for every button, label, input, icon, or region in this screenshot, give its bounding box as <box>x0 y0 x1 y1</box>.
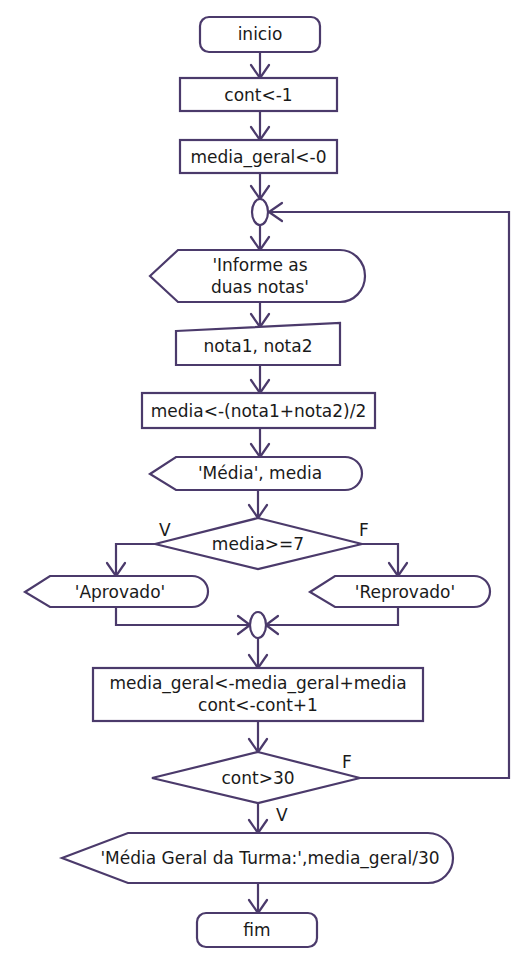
loop-connector <box>252 199 268 225</box>
show-geral-label: 'Média Geral da Turma:',media_geral/30 <box>90 847 450 869</box>
edge-label-cont-true: V <box>276 805 288 825</box>
merge-connector <box>250 612 266 638</box>
aprovado-label: 'Aprovado' <box>40 581 200 603</box>
end-label: fim <box>197 919 317 941</box>
read-notas-label: nota1, nota2 <box>176 335 340 357</box>
init-media-geral-label: media_geral<-0 <box>180 146 337 168</box>
start-label: inicio <box>200 23 320 45</box>
decision-media-label: media>=7 <box>180 533 336 555</box>
accumulate-label: media_geral<-media_geral+media cont<-con… <box>93 672 423 716</box>
init-cont-label: cont<-1 <box>180 84 337 106</box>
prompt-label: 'Informe as duas notas' <box>170 254 350 298</box>
edge-label-media-true: V <box>159 520 171 540</box>
show-media-label: 'Média', media <box>165 462 355 484</box>
reprovado-label: 'Reprovado' <box>325 581 485 603</box>
calc-media-label: media<-(nota1+nota2)/2 <box>142 400 375 422</box>
decision-cont-label: cont>30 <box>180 767 336 789</box>
edge-label-media-false: F <box>359 520 369 540</box>
edge-label-cont-false: F <box>342 752 352 772</box>
